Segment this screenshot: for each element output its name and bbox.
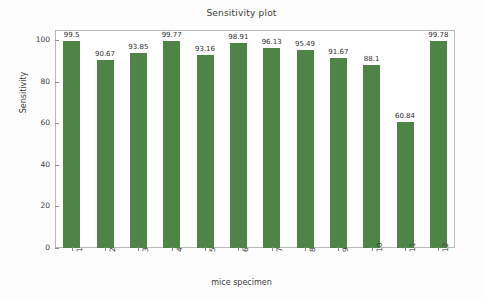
x-tick-mark [238,247,239,251]
bar [363,65,380,248]
y-tick-label: 40 [24,160,50,169]
x-tick-mark [438,247,439,251]
x-tick-label: 10 [375,242,384,252]
bar-group: 99.78 [430,30,447,248]
bar [197,55,214,248]
x-axis-title: mice specimen [0,278,483,287]
x-tick-mark [272,247,273,251]
x-tick-label: 4 [175,247,184,252]
x-tick-label: 9 [341,247,350,252]
bar-value-label: 99.78 [417,31,460,39]
bar-group: 88.1 [363,30,380,248]
y-tick-mark [55,206,59,207]
x-tick-label: 12 [441,242,450,252]
x-tick-label: 6 [241,247,250,252]
bar-value-label: 99.77 [150,31,193,39]
x-tick-label: 2 [108,247,117,252]
bar-group: 91.67 [330,30,347,248]
bar-group: 95.49 [297,30,314,248]
x-tick-mark [72,247,73,251]
y-tick-label: 80 [24,77,50,86]
bar [263,48,280,248]
x-tick-mark [172,247,173,251]
bar [97,60,114,248]
bar [430,41,447,248]
y-tick-label: 60 [24,118,50,127]
bar [163,41,180,248]
y-tick-mark [55,248,59,249]
x-tick-label: 3 [141,247,150,252]
y-tick-mark [55,165,59,166]
x-tick-label: 5 [208,247,217,252]
x-tick-mark [372,247,373,251]
y-tick-mark [55,123,59,124]
x-tick-label: 11 [408,242,417,252]
chart-page: Sensitivity plot Sensitivity 02040608010… [0,0,483,299]
bar-group: 99.5 [63,30,80,248]
bar [230,43,247,248]
bar-value-label: 99.5 [50,31,93,39]
x-tick-mark [105,247,106,251]
y-tick-label: 0 [24,243,50,252]
x-tick-label: 1 [75,247,84,252]
bar-value-label: 88.1 [350,55,393,63]
bar-group: 90.67 [97,30,114,248]
x-tick-mark [138,247,139,251]
chart-title: Sensitivity plot [0,8,483,18]
bar [130,53,147,248]
bar [397,122,414,248]
bar-value-label: 95.49 [284,40,327,48]
bar [297,50,314,248]
bar-group: 98.91 [230,30,247,248]
bar-value-label: 93.85 [117,43,160,51]
x-tick-mark [405,247,406,251]
y-tick-mark [55,40,59,41]
bar-group: 96.13 [263,30,280,248]
bar-value-label: 93.16 [184,45,227,53]
y-tick-label: 20 [24,201,50,210]
y-tick-mark [55,82,59,83]
bar [63,41,80,248]
x-tick-label: 7 [275,247,284,252]
x-tick-label: 8 [308,247,317,252]
plot-area [55,30,455,248]
bar-group: 93.16 [197,30,214,248]
x-tick-mark [305,247,306,251]
x-tick-mark [338,247,339,251]
y-tick-label: 100 [24,35,50,44]
bar [330,58,347,248]
bar-value-label: 60.84 [384,112,427,120]
bar-group: 60.84 [397,30,414,248]
bar-group: 99.77 [163,30,180,248]
x-tick-mark [205,247,206,251]
bar-group: 93.85 [130,30,147,248]
